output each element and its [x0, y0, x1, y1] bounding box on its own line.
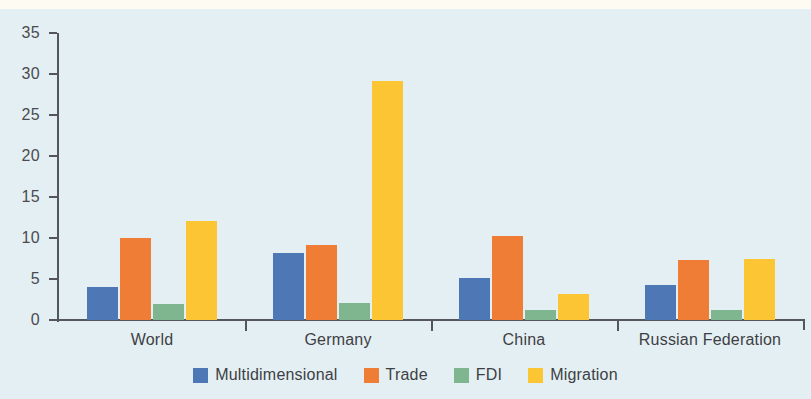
- y-axis-tick-label: 25: [0, 106, 40, 124]
- legend-label: Migration: [550, 366, 618, 384]
- y-axis-tick: [49, 237, 57, 239]
- x-axis-category-label: Russian Federation: [617, 331, 803, 349]
- legend-swatch-icon: [364, 368, 379, 383]
- y-axis-line: [57, 33, 59, 322]
- y-axis-tick: [49, 155, 57, 157]
- bar: [459, 278, 490, 320]
- legend-label: Trade: [386, 366, 428, 384]
- legend-swatch-icon: [193, 368, 208, 383]
- bar: [339, 303, 370, 320]
- y-axis-tick: [49, 278, 57, 280]
- chart-legend: MultidimensionalTradeFDIMigration: [0, 366, 811, 384]
- bar: [87, 287, 118, 320]
- bar: [306, 245, 337, 320]
- bar: [525, 310, 556, 320]
- y-axis-tick-label: 20: [0, 147, 40, 165]
- y-axis-tick: [49, 73, 57, 75]
- y-axis-tick: [49, 32, 57, 34]
- y-axis-tick-label: 0: [0, 311, 40, 329]
- bar: [645, 285, 676, 320]
- y-axis-tick: [49, 114, 57, 116]
- legend-item[interactable]: Trade: [364, 366, 428, 384]
- bar: [372, 81, 403, 320]
- bar: [153, 304, 184, 320]
- y-axis-tick: [49, 196, 57, 198]
- y-axis-tick-label: 10: [0, 229, 40, 247]
- x-axis-category-label: World: [59, 331, 245, 349]
- legend-label: Multidimensional: [215, 366, 337, 384]
- bar-chart-plot-area: 05101520253035 WorldGermanyChinaRussian …: [0, 0, 811, 399]
- x-axis-tick: [617, 321, 619, 331]
- y-axis-tick-label: 15: [0, 188, 40, 206]
- bar: [558, 294, 589, 320]
- y-axis-tick-label: 35: [0, 24, 40, 42]
- bar: [492, 236, 523, 320]
- bar: [120, 238, 151, 320]
- bar: [273, 253, 304, 320]
- y-axis-tick-label: 5: [0, 270, 40, 288]
- bar: [186, 221, 217, 320]
- legend-item[interactable]: Multidimensional: [193, 366, 337, 384]
- x-axis-tick: [431, 321, 433, 331]
- legend-item[interactable]: FDI: [454, 366, 502, 384]
- legend-swatch-icon: [528, 368, 543, 383]
- x-axis-end-tick: [803, 321, 805, 330]
- legend-item[interactable]: Migration: [528, 366, 618, 384]
- chart-page: 05101520253035 WorldGermanyChinaRussian …: [0, 0, 811, 399]
- x-axis-category-label: Germany: [245, 331, 431, 349]
- x-axis-tick: [245, 321, 247, 331]
- bar: [711, 310, 742, 320]
- legend-label: FDI: [476, 366, 502, 384]
- bar: [678, 260, 709, 320]
- x-axis-category-label: China: [431, 331, 617, 349]
- bar: [744, 259, 775, 320]
- y-axis-tick-label: 30: [0, 65, 40, 83]
- legend-swatch-icon: [454, 368, 469, 383]
- y-axis-tick: [49, 319, 57, 321]
